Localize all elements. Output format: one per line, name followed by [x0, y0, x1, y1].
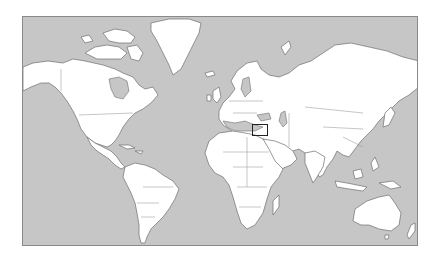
tasmania	[385, 235, 389, 239]
world-map	[22, 16, 418, 246]
greenland	[151, 19, 201, 75]
highlight-box-levant	[252, 124, 268, 136]
australia	[353, 195, 401, 231]
world-map-svg	[23, 17, 418, 246]
british-isles	[213, 87, 221, 103]
iceland	[205, 71, 215, 77]
indonesia	[335, 181, 367, 191]
north-america	[23, 59, 158, 147]
india	[305, 151, 325, 183]
madagascar	[273, 195, 279, 215]
new-zealand	[407, 223, 415, 239]
arctic-islands	[85, 45, 127, 59]
